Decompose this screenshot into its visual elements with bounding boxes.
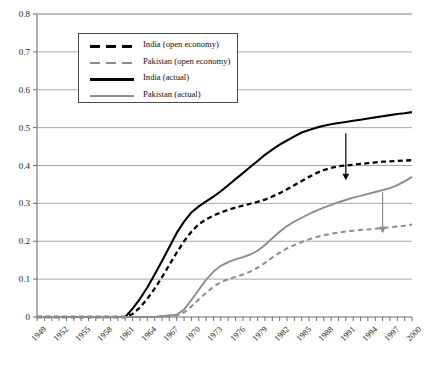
series-line-pakistan-actual (37, 177, 412, 317)
chart-figure: 00.10.20.30.40.50.60.70.8 19491952195519… (0, 0, 424, 368)
legend-entry: India (actual) (79, 71, 239, 88)
y-axis-label: 0.2 (4, 236, 30, 246)
legend-label: India (actual) (143, 72, 189, 82)
y-axis-label: 0.7 (4, 47, 30, 57)
series-line-india-open-economy (37, 160, 412, 317)
y-axis-label: 0 (4, 312, 30, 322)
legend-label: Pakistan (actual) (143, 89, 201, 99)
legend-label: Pakistan (open economy) (143, 56, 230, 66)
y-axis-label: 0.5 (4, 123, 30, 133)
series-line-pakistan-open-economy (37, 225, 412, 317)
pakistan-gap-arrow (379, 192, 386, 233)
legend-entry: Pakistan (actual) (79, 88, 239, 105)
series-line-india-actual (37, 112, 412, 317)
legend-swatch (90, 45, 134, 48)
y-axis-label: 0.1 (4, 274, 30, 284)
legend-entry: Pakistan (open economy) (79, 55, 239, 72)
legend-swatch (90, 78, 134, 81)
y-axis-label: 0.3 (4, 198, 30, 208)
legend-label: India (open economy) (143, 39, 219, 49)
india-gap-arrow (342, 133, 349, 180)
y-axis-label: 0.6 (4, 85, 30, 95)
legend-swatch (90, 95, 134, 97)
legend-entry: India (open economy) (79, 38, 239, 55)
chart-legend: India (open economy)Pakistan (open econo… (78, 33, 238, 103)
y-axis-label: 0.8 (4, 9, 30, 19)
y-axis-label: 0.4 (4, 161, 30, 171)
legend-swatch (90, 62, 134, 65)
